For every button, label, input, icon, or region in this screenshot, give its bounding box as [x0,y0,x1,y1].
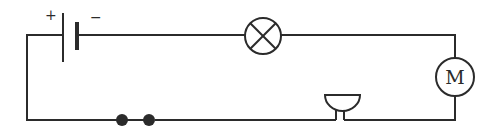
battery-negative-label: − [90,9,102,25]
wire-right-bottom [344,96,455,120]
battery-positive-label: + [45,7,57,23]
motor-icon: M [436,58,474,96]
motor-label: M [445,66,464,88]
bell-icon [325,95,360,120]
switch-contact-right [143,114,155,126]
lamp-icon [245,18,281,54]
wire-left [27,35,117,120]
switch-contact-left [116,114,128,126]
circuit-diagram: + − M [0,0,499,131]
circuit-wires [27,35,455,120]
wire-top-right [281,35,455,58]
